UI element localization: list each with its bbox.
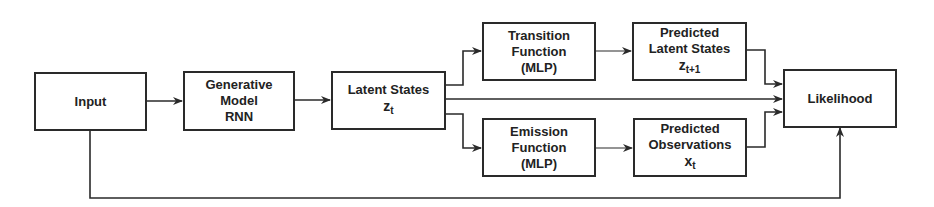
node-generative-line2: Model: [220, 93, 258, 109]
node-predlatent-line1: Predicted: [660, 25, 719, 41]
node-latent-symbol: zt: [383, 98, 393, 119]
node-generative-line3: RNN: [225, 109, 253, 125]
edge-predobs-likelihood: [746, 112, 782, 147]
node-emission-function: Emission Function (MLP): [482, 118, 596, 177]
node-transition-line1: Transition: [508, 28, 570, 44]
node-predobs-symbol: xt: [684, 153, 695, 174]
node-latent-line1: Latent States: [348, 82, 430, 98]
edge-latent-emission: [445, 114, 481, 148]
node-predlatent-symbol: zt+1: [679, 57, 701, 78]
node-latent-states: Latent States zt: [331, 71, 446, 130]
node-input: Input: [34, 72, 147, 131]
node-predobs-line2: Observations: [648, 137, 731, 153]
node-emission-line2: Function: [512, 140, 567, 156]
node-input-label: Input: [75, 94, 107, 110]
node-predicted-latent-states: Predicted Latent States zt+1: [632, 22, 747, 81]
node-emission-line3: (MLP): [521, 156, 557, 172]
node-transition-line3: (MLP): [521, 60, 557, 76]
node-predlatent-line2: Latent States: [649, 41, 731, 57]
node-generative-model: Generative Model RNN: [183, 71, 295, 131]
node-likelihood-label: Likelihood: [808, 91, 873, 107]
node-emission-line1: Emission: [510, 124, 568, 140]
node-likelihood: Likelihood: [783, 69, 897, 128]
edge-predlatent-likelihood: [746, 50, 782, 84]
node-generative-line1: Generative: [205, 77, 272, 93]
node-predicted-observations: Predicted Observations xt: [633, 118, 747, 177]
edge-latent-transition: [445, 51, 481, 85]
node-predobs-line1: Predicted: [660, 121, 719, 137]
node-transition-line2: Function: [512, 44, 567, 60]
node-transition-function: Transition Function (MLP): [482, 22, 596, 81]
